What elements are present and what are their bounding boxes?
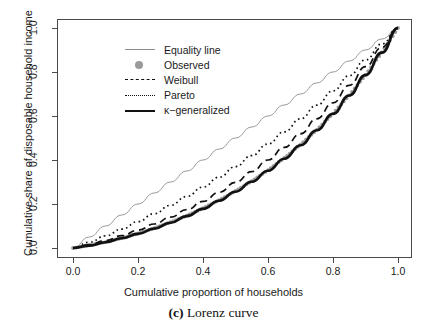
kappa-generalized-solid-key-icon [123,103,157,118]
y-tick-label: 0.6 [26,110,40,122]
x-tick-mark [73,258,74,263]
legend-item-kappa-generalized: κ−generalized [123,103,273,118]
x-tick-label: 0.0 [53,265,93,277]
x-tick-label: 0.8 [313,265,353,277]
x-tick-mark [138,258,139,263]
y-tick-mark [52,28,57,29]
caption-text: Lorenz curve [187,305,259,320]
y-tick-label: 0.0 [26,242,40,254]
legend-item-equality-line: Equality line [123,42,273,57]
legend-label: Observed [157,59,210,71]
y-tick-mark [52,72,57,73]
x-tick-label: 1.0 [378,265,418,277]
figure-caption: (c) Lorenz curve [0,305,427,321]
legend-label: Weibull [157,74,198,86]
y-tick-mark [52,116,57,117]
y-tick-mark [52,160,57,161]
caption-prefix: (c) [169,305,184,320]
legend-item-pareto: Pareto [123,88,273,103]
weibull-dashed-key-icon [123,72,157,87]
legend-label: κ−generalized [157,104,230,116]
legend-label: Pareto [157,89,195,101]
x-axis-title: Cumulative proportion of households [0,286,427,298]
y-tick-label: 0.2 [26,198,40,210]
legend-item-observed: Observed [123,57,273,72]
x-tick-label: 0.6 [248,265,288,277]
pareto-dotted-key-icon [123,88,157,103]
y-tick-label: 0.4 [26,154,40,166]
legend-item-weibull: Weibull [123,72,273,87]
x-tick-mark [333,258,334,263]
chart-legend: Equality line Observed Weibull Pareto [123,42,273,118]
x-tick-mark [398,258,399,263]
y-tick-label: 1.0 [26,22,40,34]
x-tick-label: 0.4 [183,265,223,277]
x-tick-label: 0.2 [118,265,158,277]
equality-line-key-icon [123,42,157,57]
x-tick-mark [268,258,269,263]
y-tick-label: 0.8 [26,66,40,78]
legend-label: Equality line [157,44,221,56]
y-axis-title: Cumulative share of disposable household… [22,8,34,258]
observed-point-key-icon [123,57,157,72]
y-tick-mark [52,248,57,249]
y-tick-mark [52,204,57,205]
x-tick-mark [203,258,204,263]
plot-area: Equality line Observed Weibull Pareto [57,19,412,258]
lorenz-curve-figure: Equality line Observed Weibull Pareto [0,0,427,333]
